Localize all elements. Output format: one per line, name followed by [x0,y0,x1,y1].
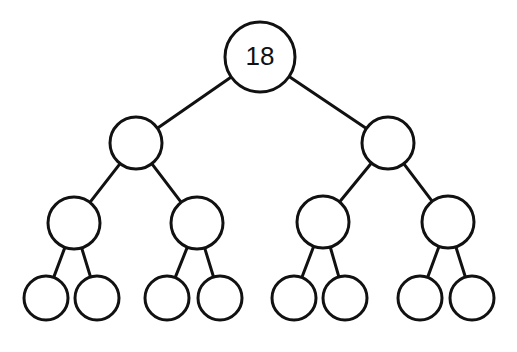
tree-root-node: 18 [225,22,295,92]
tree-node [450,276,494,320]
node-circle [171,197,223,249]
tree-node [145,276,189,320]
node-circle [362,117,414,169]
node-circle [272,276,316,320]
tree-edge [152,164,181,203]
tree-node [398,276,442,320]
tree-edge [340,163,372,202]
tree-edge [157,77,231,128]
tree-edges [54,77,466,278]
tree-node [362,117,414,169]
tree-node [110,117,162,169]
binary-tree-diagram: 18 [0,0,517,352]
tree-edge [205,248,214,277]
tree-edge [456,247,466,277]
tree-node [272,276,316,320]
tree-node [171,197,223,249]
node-circle [110,117,162,169]
tree-edge [289,77,366,129]
node-circle [323,276,367,320]
tree-nodes: 18 [24,22,494,320]
tree-edge [54,247,65,277]
node-circle [75,276,119,320]
tree-node [323,276,367,320]
node-circle [450,276,494,320]
tree-node [297,196,349,248]
tree-node [24,276,68,320]
tree-edge [175,247,187,277]
node-circle [297,196,349,248]
node-circle [24,276,68,320]
node-circle [398,276,442,320]
node-circle [145,276,189,320]
node-circle [198,276,242,320]
tree-edge [428,246,439,277]
tree-node [75,276,119,320]
tree-edge [404,164,433,202]
tree-edge [82,248,91,277]
tree-node [198,276,242,320]
node-label: 18 [246,41,275,71]
tree-edge [330,247,339,277]
node-circle [422,196,474,248]
tree-edge [90,164,120,203]
tree-node [422,196,474,248]
node-circle [48,197,100,249]
tree-node [48,197,100,249]
tree-edge [302,246,314,277]
